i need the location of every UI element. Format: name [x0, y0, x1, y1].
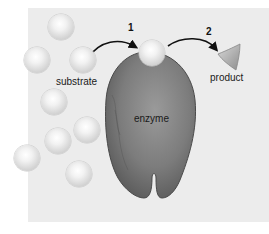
step-1-number: 1 [128, 22, 134, 33]
substrate-label: substrate [56, 76, 97, 87]
bound-substrate-molecule [139, 40, 165, 66]
enzyme-label: enzyme [134, 113, 169, 124]
substrate-molecule [14, 145, 40, 171]
substrate-molecule [48, 14, 74, 40]
substrate-molecule [24, 47, 50, 73]
substrate-molecule [66, 161, 92, 187]
substrate-molecule [70, 47, 96, 73]
substrate-molecule [45, 128, 71, 154]
arrow-step-2 [168, 39, 215, 48]
substrate-molecule [41, 89, 67, 115]
substrate-molecule [74, 117, 100, 143]
enzyme-shape [106, 52, 196, 198]
product-shape [218, 44, 240, 70]
product-label: product [210, 72, 243, 83]
step-2-number: 2 [206, 26, 212, 37]
